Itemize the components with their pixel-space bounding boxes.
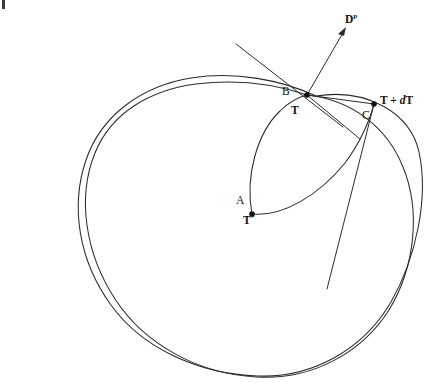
figure-canvas: Dp B T T + dT C A T*	[0, 0, 441, 389]
direction-vector-arrowhead	[338, 27, 346, 36]
label-t-star-base: T	[243, 214, 251, 226]
vertex-dot-t	[304, 92, 310, 98]
ray-t-lower-right	[307, 95, 360, 139]
vertex-dot-t-plus-dt	[371, 101, 377, 107]
label-t-plus-dt-prefix: T +	[380, 94, 400, 106]
label-point-t-plus-dt: T + dT	[380, 95, 413, 107]
label-point-t-star: T*	[243, 215, 254, 227]
chord-t-to-t-plus-dt	[307, 95, 374, 104]
diagram-svg	[0, 0, 441, 389]
label-point-c: C	[362, 110, 370, 122]
label-direction-vector-superscript: p	[353, 12, 357, 20]
label-point-t: T	[291, 105, 299, 117]
label-point-a: A	[236, 195, 244, 207]
label-direction-vector: Dp	[345, 14, 357, 26]
label-point-b: B	[282, 86, 290, 98]
label-t-star-superscript: *	[251, 213, 255, 221]
inner-arc-a-to-tdt	[252, 104, 374, 214]
label-t-plus-dt-suffix: T	[406, 94, 414, 106]
outer-closed-curve-2	[85, 82, 413, 377]
page-edge-artifact	[2, 0, 5, 9]
direction-vector-shaft	[307, 31, 344, 95]
